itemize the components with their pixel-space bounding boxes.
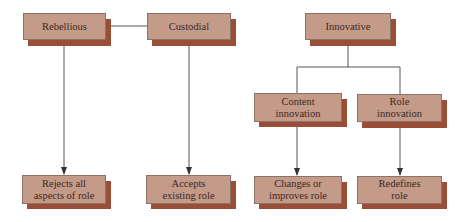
changes-label-line2: improves role [269,190,327,202]
redefines-label-line2: role [391,190,407,202]
arrowhead-icon [397,168,403,176]
rejects-label-line2: aspects of role [34,190,95,202]
rejects-label-line1: Rejects all [42,178,86,190]
role-innovation-box: Role innovation [357,94,442,122]
rejects-box: Rejects all aspects of role [22,175,106,204]
role-innovation-label-line1: Role [390,96,410,108]
redefines-label-line1: Redefines [379,178,421,190]
role-innovation-label-line2: innovation [377,108,422,120]
redefines-box: Redefines role [357,176,442,204]
custodial-box: Custodial [147,13,231,40]
accepts-box: Accepts existing role [146,175,231,204]
arrowhead-icon [61,167,67,175]
accepts-label-line2: existing role [162,190,214,202]
changes-label-line1: Changes or [274,178,322,190]
rebellious-label: Rebellious [42,21,87,33]
custodial-label: Custodial [169,21,209,33]
innovative-label: Innovative [326,21,371,33]
rebellious-box: Rebellious [23,13,106,40]
arrowhead-icon [186,167,192,175]
innovative-box: Innovative [305,13,391,40]
arrowhead-icon [294,168,300,176]
accepts-label-line1: Accepts [172,178,206,190]
content-innovation-box: Content innovation [254,93,342,122]
content-innovation-label-line2: innovation [276,108,321,120]
changes-box: Changes or improves role [254,176,342,204]
content-innovation-label-line1: Content [281,96,314,108]
